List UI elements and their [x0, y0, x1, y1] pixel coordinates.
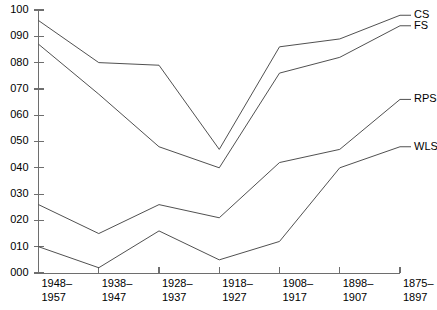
x-tick-label-line1: 1928– [162, 277, 193, 289]
series-label-wls: WLS [414, 140, 437, 152]
y-tick-label: 010 [10, 240, 28, 252]
x-tick-label-line2: 1937 [162, 291, 186, 303]
line-chart: 000010020030040050060070080090100 1948–1… [0, 0, 437, 310]
series-line-cs [39, 15, 401, 149]
y-tick-label: 080 [10, 56, 28, 68]
series-labels: CSFSRPSWLS [414, 8, 437, 152]
x-tick-label-group: 1875–1897 [403, 277, 434, 303]
x-tick-label-line2: 1927 [222, 291, 246, 303]
series-line-wls [39, 147, 401, 268]
series-label-rps: RPS [414, 92, 437, 104]
y-tick-label: 100 [10, 3, 28, 15]
x-tick-label-line2: 1957 [42, 291, 66, 303]
y-tick-label: 090 [10, 29, 28, 41]
y-tick-label: 040 [10, 161, 28, 173]
y-tick-label: 070 [10, 82, 28, 94]
x-tick-label-group: 1938–1947 [102, 277, 133, 303]
chart-canvas: 000010020030040050060070080090100 1948–1… [0, 0, 437, 310]
y-tick-label: 030 [10, 187, 28, 199]
series-line-fs [39, 26, 401, 168]
x-tick-label-group: 1908–1917 [283, 277, 314, 303]
y-tick-labels: 000010020030040050060070080090100 [10, 3, 28, 278]
x-tick-label-group: 1918–1927 [222, 277, 253, 303]
x-tick-label-line1: 1908– [283, 277, 314, 289]
x-tick-marks [39, 267, 401, 273]
y-tick-label: 000 [10, 266, 28, 278]
x-tick-label-group: 1948–1957 [42, 277, 73, 303]
series-leader-lines [400, 15, 411, 147]
x-tick-label-line1: 1938– [102, 277, 133, 289]
x-tick-labels: 1948–19571938–19471928–19371918–19271908… [42, 277, 435, 303]
series-line-rps [39, 99, 401, 233]
y-axis: 000010020030040050060070080090100 [10, 3, 43, 278]
x-tick-label-line1: 1948– [42, 277, 73, 289]
x-tick-label-line2: 1897 [403, 291, 427, 303]
y-tick-label: 060 [10, 108, 28, 120]
x-tick-label-line2: 1917 [283, 291, 307, 303]
x-tick-label-group: 1928–1937 [162, 277, 193, 303]
series-lines [39, 15, 401, 267]
x-tick-label-group: 1898–1907 [343, 277, 374, 303]
x-axis: 1948–19571938–19471928–19371918–19271908… [39, 267, 435, 303]
x-tick-label-line2: 1907 [343, 291, 367, 303]
x-tick-label-line1: 1875– [403, 277, 434, 289]
x-tick-label-line1: 1918– [222, 277, 253, 289]
series-label-fs: FS [414, 19, 428, 31]
y-tick-label: 020 [10, 213, 28, 225]
y-tick-label: 050 [10, 134, 28, 146]
x-tick-label-line1: 1898– [343, 277, 374, 289]
x-tick-label-line2: 1947 [102, 291, 126, 303]
